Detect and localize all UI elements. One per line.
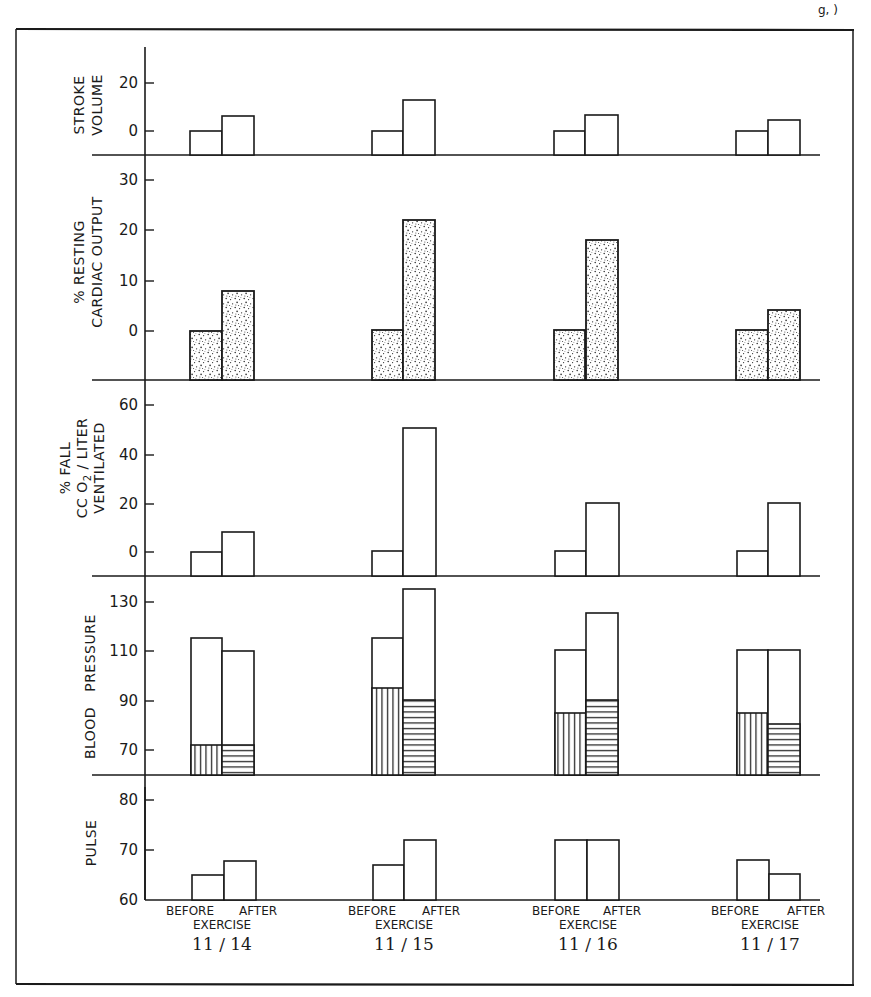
y-axis-title: PULSE (83, 820, 99, 867)
bar-before-11-14 (190, 331, 222, 380)
date-label: 11 / 14 (192, 934, 252, 954)
y-ticks (145, 180, 154, 331)
panel-cardiac-output: 30 20 10 0 % RESTING CARDIAC OUTPUT (71, 171, 820, 380)
bar-after-11-17 (768, 310, 800, 380)
bar-before-11-15 (372, 131, 403, 155)
tick-label: 20 (119, 221, 138, 239)
page-header-fragment: g, ) (818, 3, 838, 17)
bar-before-11-17 (737, 860, 769, 900)
bar-before-11-16 (554, 131, 585, 155)
y-axis-title: % FALL (57, 442, 73, 495)
bar-after-11-14 (222, 291, 254, 380)
before-label: BEFORE (532, 904, 580, 918)
tick-label: 70 (119, 841, 138, 859)
after-label: AFTER (422, 904, 460, 918)
exercise-label: EXERCISE (375, 918, 433, 932)
y-ticks (145, 405, 154, 552)
bar-after-diastolic-11-14 (222, 745, 254, 775)
y-axis-title: STROKE (71, 75, 87, 134)
bar-before-11-17 (736, 131, 768, 155)
tick-label: 60 (119, 891, 138, 909)
bar-after-11-14 (224, 861, 256, 900)
y-axis-title: VENTILATED (91, 422, 107, 513)
bar-before-11-16 (555, 840, 587, 900)
bar-after-11-15 (403, 100, 435, 155)
bars (191, 428, 800, 576)
bar-after-11-15 (404, 840, 436, 900)
y-ticks (145, 602, 154, 750)
bar-after-11-14 (222, 116, 254, 155)
tick-label: 20 (119, 495, 138, 513)
bar-before-11-15 (372, 330, 403, 380)
bar-before-11-16 (554, 330, 585, 380)
panel-o2-per-liter: 60 40 20 0 % FALL CC O2 / LITER VENTILAT… (57, 396, 820, 576)
bar-after-diastolic-11-16 (586, 700, 618, 775)
tick-label: 60 (119, 396, 138, 414)
exercise-label: EXERCISE (193, 918, 251, 932)
x-group-11-15: BEFORE AFTER EXERCISE 11 / 15 (348, 904, 460, 954)
y-axis-title: VOLUME (89, 74, 105, 136)
bar-before-11-17 (737, 551, 768, 576)
bar-after-11-15 (403, 220, 435, 380)
x-group-11-17: BEFORE AFTER EXERCISE 11 / 17 (711, 904, 825, 954)
tick-label: 20 (119, 74, 138, 92)
bar-before-diastolic-11-14 (191, 745, 222, 775)
date-label: 11 / 17 (740, 934, 800, 954)
bar-before-diastolic-11-17 (737, 713, 768, 775)
bar-after-11-17 (768, 120, 800, 155)
before-label: BEFORE (166, 904, 214, 918)
tick-label: 90 (119, 692, 138, 710)
tick-label: 130 (109, 593, 138, 611)
tick-label: 80 (119, 791, 138, 809)
physiology-bar-chart-figure: g, ) 20 0 STROKE VOLUME (0, 0, 871, 997)
bar-before-11-16 (555, 551, 586, 576)
tick-label: 110 (109, 642, 138, 660)
x-group-11-16: BEFORE AFTER EXERCISE 11 / 16 (532, 904, 641, 954)
y-axis-title: % RESTING (71, 220, 87, 304)
exercise-label: EXERCISE (559, 918, 617, 932)
y-axis-title-part: / LITER (74, 418, 90, 475)
bars (192, 840, 800, 900)
tick-label: 10 (119, 272, 138, 290)
bar-before-11-14 (192, 875, 224, 900)
x-group-11-14: BEFORE AFTER EXERCISE 11 / 14 (166, 904, 277, 954)
bar-before-11-15 (373, 865, 404, 900)
bar-after-11-16 (586, 503, 619, 576)
bar-before-11-14 (190, 131, 222, 155)
y-axis-title: BLOOD (82, 707, 98, 759)
bar-before-11-14 (191, 552, 222, 576)
bar-before-diastolic-11-15 (372, 688, 403, 775)
bar-after-11-17 (769, 874, 800, 900)
y-axis-title: CARDIAC OUTPUT (89, 196, 105, 328)
bars (190, 220, 800, 380)
bar-after-diastolic-11-15 (403, 700, 435, 775)
bar-after-11-17 (768, 503, 800, 576)
bars (190, 100, 800, 155)
date-label: 11 / 16 (558, 934, 618, 954)
bar-before-11-15 (372, 551, 403, 576)
after-label: AFTER (239, 904, 277, 918)
bar-after-11-16 (585, 115, 618, 155)
x-axis-labels: BEFORE AFTER EXERCISE 11 / 14 BEFORE AFT… (166, 904, 825, 954)
tick-label: 0 (128, 122, 138, 140)
bars (191, 589, 800, 775)
bar-after-11-16 (587, 840, 619, 900)
bar-after-diastolic-11-17 (768, 724, 800, 775)
after-label: AFTER (603, 904, 641, 918)
y-ticks (145, 83, 154, 131)
y-ticks (145, 800, 154, 850)
tick-label: 0 (128, 322, 138, 340)
y-axis-title-part: CC O (74, 481, 90, 518)
after-label: AFTER (787, 904, 825, 918)
tick-label: 30 (119, 171, 138, 189)
tick-label: 40 (119, 446, 138, 464)
tick-label: 0 (128, 543, 138, 561)
bar-before-diastolic-11-16 (555, 713, 586, 775)
bar-after-11-14 (222, 532, 254, 576)
bar-after-11-15 (403, 428, 436, 576)
before-label: BEFORE (348, 904, 396, 918)
panel-stroke-volume: 20 0 STROKE VOLUME (71, 74, 820, 155)
panel-blood-pressure: 130 110 90 70 BLOOD PRESSURE (82, 589, 820, 775)
bar-before-11-17 (736, 330, 768, 380)
before-label: BEFORE (711, 904, 759, 918)
